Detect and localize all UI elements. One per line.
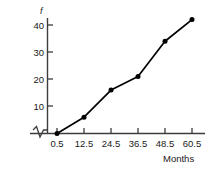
x-tick-label-0: 0.5: [50, 139, 63, 149]
y-tick-label-40: 40: [12, 21, 44, 31]
data-series-line: [57, 20, 192, 134]
data-point: [109, 88, 114, 93]
x-tick-label-1: 12.5: [75, 139, 94, 149]
y-axis-ticks: [48, 25, 54, 106]
data-point: [136, 74, 141, 79]
data-point: [190, 17, 195, 22]
x-tick-label-5: 60.5: [183, 139, 202, 149]
x-tick-label-3: 36.5: [129, 139, 148, 149]
line-chart: f 40 30 20 10 0.5 12.5 24.5 36.5 48.5 60…: [0, 0, 214, 174]
y-tick-label-10: 10: [12, 102, 44, 112]
data-point: [163, 39, 168, 44]
x-axis-title: Months: [163, 154, 194, 164]
x-tick-label-4: 48.5: [156, 139, 175, 149]
x-tick-label-2: 24.5: [102, 139, 121, 149]
x-axis-break-icon: [33, 127, 47, 138]
y-tick-label-30: 30: [12, 48, 44, 58]
y-axis-title: f: [40, 7, 43, 16]
data-point: [55, 131, 60, 136]
x-axis-ticks: [57, 128, 192, 134]
data-point: [82, 115, 87, 120]
y-tick-label-20: 20: [12, 75, 44, 85]
